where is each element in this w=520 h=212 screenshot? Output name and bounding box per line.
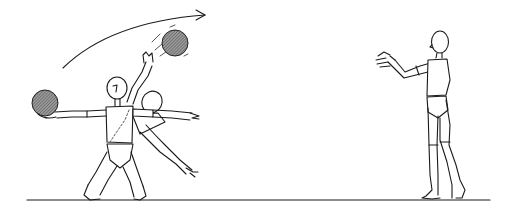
ball-in-flight-icon xyxy=(152,25,188,56)
illustration-svg xyxy=(0,0,520,212)
illustration-canvas: Two wooden-mannequin figures passing a b… xyxy=(0,0,520,212)
thrower-figure xyxy=(55,52,199,200)
thrower-ghost-figure xyxy=(132,88,198,177)
catcher-figure xyxy=(376,31,465,199)
ball-in-hand-icon xyxy=(32,90,58,118)
